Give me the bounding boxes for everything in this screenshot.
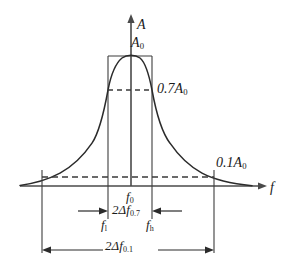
bandwidth-0.1-subscript: 0.1 [123,245,133,254]
equivalent-rectangle [108,56,152,186]
resonance-bandwidth-figure: A A0 0.7A0 0.1A0 f f0 2Δf0.7 fl fh 2Δf0.… [0,0,286,269]
peak-amplitude-subscript: 0 [140,41,144,51]
y-axis-arrowhead [127,14,134,23]
x-axis [20,182,267,189]
upper-frequency-label: fh [146,218,154,231]
level-0.7-subscript: 0 [183,87,187,97]
bandwidth-0.7-right-arrowhead [152,208,161,215]
y-axis-label: A [137,18,146,32]
level-0.1-subscript: 0 [242,161,246,171]
peak-amplitude-symbol: A [131,35,140,50]
bandwidth-0.1-left-arrowhead [42,247,51,254]
lower-frequency-subscript: l [105,224,107,233]
bandwidth-0.7-label: 2Δf0.7 [112,203,140,216]
upper-frequency-subscript: h [150,224,154,233]
bandwidth-0.7-symbol: 2Δf [112,202,130,217]
level-0.7-symbol: 0.7A [157,81,183,96]
bandwidth-0.1-symbol: 2Δf [105,238,123,253]
level-0.1-symbol: 0.1A [216,155,242,170]
bandwidth-0.7-left-arrowhead [99,208,108,215]
lower-frequency-label: fl [101,218,107,231]
x-axis-label: f [270,181,274,195]
level-0.1-label: 0.1A0 [216,156,246,170]
level-0.7-label: 0.7A0 [157,82,187,96]
peak-amplitude-label: A0 [131,36,144,50]
bandwidth-0.1-label: 2Δf0.1 [105,239,133,252]
x-axis-arrowhead [258,182,267,189]
bandwidth-0.1-right-arrowhead [205,247,214,254]
bandwidth-0.7-subscript: 0.7 [130,209,140,218]
